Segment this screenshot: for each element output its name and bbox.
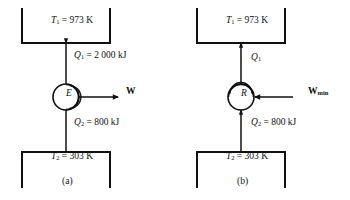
q1-eq: = <box>87 50 92 60</box>
q2-eq: = <box>264 117 269 127</box>
q2-label: Q2 = 800 kJ <box>74 118 119 128</box>
work-label: W <box>126 87 136 97</box>
panel-b-reversed-engine: T1 = 973 K T2 = 303 K Q1 Q2 = 800 kJ Wmi… <box>175 0 350 200</box>
work-symbol: W <box>126 86 136 96</box>
q1-label: Q1 = 2 000 kJ <box>74 51 126 61</box>
cold-reservoir-sub: 2 <box>231 154 234 161</box>
panel-a-linework <box>0 0 175 200</box>
hot-reservoir-eq: = <box>237 15 242 25</box>
device-symbol: E <box>66 88 72 98</box>
panel-b-linework <box>175 0 350 200</box>
work-label: Wmin <box>308 87 328 97</box>
q2-eq: = <box>87 117 92 127</box>
q2-sub: 2 <box>258 120 261 127</box>
q1-sub: 1 <box>81 53 84 60</box>
hot-reservoir-label: T1 = 973 K <box>187 16 307 26</box>
cold-reservoir-value: 303 K <box>245 151 269 161</box>
q1-value: 2 000 kJ <box>94 50 126 60</box>
device-symbol-label: R <box>241 89 247 99</box>
work-sub: min <box>318 89 329 96</box>
q2-sub: 2 <box>81 120 84 127</box>
hot-reservoir-sub: 1 <box>56 18 59 25</box>
panel-b-caption: (b) <box>237 176 248 186</box>
work-symbol: W <box>308 86 318 96</box>
device-symbol-label: E <box>66 89 72 99</box>
cold-reservoir-sub: 2 <box>56 154 59 161</box>
q2-value: 800 kJ <box>271 117 296 127</box>
hot-reservoir-value: 973 K <box>70 15 94 25</box>
cold-reservoir-value: 303 K <box>70 151 94 161</box>
cold-reservoir-eq: = <box>62 151 67 161</box>
cold-reservoir-label: T2 = 303 K <box>12 152 132 162</box>
cold-reservoir-label: T2 = 303 K <box>187 152 307 162</box>
hot-reservoir-value: 973 K <box>245 15 269 25</box>
hot-reservoir-label: T1 = 973 K <box>12 16 132 26</box>
cold-reservoir-eq: = <box>237 151 242 161</box>
q1-label: Q1 <box>251 53 261 63</box>
panel-a-caption: (a) <box>62 176 73 186</box>
thermodynamics-figure: T1 = 973 K T2 = 303 K Q1 = 2 000 kJ Q2 =… <box>0 0 350 200</box>
q1-sub: 1 <box>258 55 261 62</box>
hot-reservoir-eq: = <box>62 15 67 25</box>
device-symbol: R <box>241 88 247 98</box>
q2-value: 800 kJ <box>94 117 119 127</box>
q2-label: Q2 = 800 kJ <box>251 118 296 128</box>
hot-reservoir-sub: 1 <box>231 18 234 25</box>
panel-a-heat-engine: T1 = 973 K T2 = 303 K Q1 = 2 000 kJ Q2 =… <box>0 0 175 200</box>
